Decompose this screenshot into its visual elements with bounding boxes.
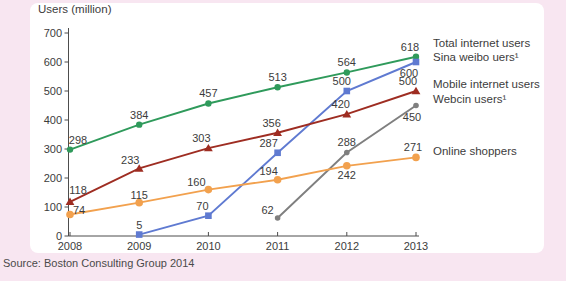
data-point-marker (274, 84, 280, 90)
legend-label: Total internet users (433, 37, 530, 49)
legend-label: Sina weibo uers¹ (433, 51, 519, 63)
value-label: 356 (262, 117, 280, 129)
value-label: 298 (69, 134, 87, 146)
data-point-marker (275, 215, 281, 221)
x-tick-label: 2011 (266, 240, 290, 252)
value-label: 450 (403, 111, 421, 123)
value-label: 5 (136, 219, 142, 231)
value-label: 194 (259, 165, 277, 177)
value-label: 513 (268, 71, 286, 83)
data-point-marker (205, 212, 212, 219)
value-label: 564 (338, 56, 356, 68)
value-label: 233 (121, 154, 139, 166)
data-point-marker (136, 231, 143, 238)
value-label: 118 (69, 184, 87, 196)
legend-label: Mobile internet users (433, 78, 540, 90)
data-point-marker (205, 186, 213, 194)
data-point-marker (344, 88, 351, 95)
value-label: 303 (192, 132, 210, 144)
x-tick-label: 2009 (127, 240, 151, 252)
y-tick-label: 600 (44, 56, 62, 68)
y-tick-label: 100 (44, 201, 62, 213)
value-label: 288 (338, 136, 356, 148)
value-label: 457 (199, 87, 217, 99)
source-note: Source: Boston Consulting Group 2014 (3, 257, 194, 269)
value-label: 242 (338, 169, 356, 181)
legend-label: Webcin users¹ (433, 93, 506, 105)
data-point-marker (205, 100, 211, 106)
value-label: 271 (404, 141, 422, 153)
value-label: 287 (259, 137, 277, 149)
x-tick-label: 2010 (196, 240, 220, 252)
y-tick-label: 300 (44, 143, 62, 155)
x-tick-label: 2013 (404, 240, 428, 252)
y-tick-label: 400 (44, 114, 62, 126)
y-tick-label: 500 (44, 85, 62, 97)
series-line (278, 106, 416, 219)
data-point-marker (413, 103, 419, 109)
y-tick-label: 200 (44, 172, 62, 184)
x-tick-label: 2008 (58, 240, 82, 252)
data-point-marker (274, 149, 281, 156)
figure: Users (million) 010020030040050060070020… (0, 0, 566, 281)
data-point-marker (412, 87, 421, 94)
data-point-marker (412, 154, 420, 162)
data-point-marker (274, 176, 282, 184)
value-label: 500 (399, 75, 417, 87)
legend-label: Online shoppers (433, 145, 517, 157)
value-label: 115 (130, 189, 148, 201)
data-point-marker (413, 59, 420, 66)
data-point-marker (344, 150, 350, 156)
chart-canvas: 0100200300400500600700200820092010201120… (0, 0, 566, 281)
value-label: 618 (401, 41, 419, 53)
value-label: 420 (332, 98, 350, 110)
value-label: 74 (73, 204, 85, 216)
x-tick-label: 2012 (335, 240, 359, 252)
value-label: 160 (187, 176, 205, 188)
value-label: 384 (130, 109, 148, 121)
value-label: 70 (196, 200, 208, 212)
value-label: 500 (333, 75, 351, 87)
series-line (70, 57, 416, 150)
data-point-marker (136, 121, 142, 127)
data-point-marker (67, 146, 73, 152)
value-label: 62 (261, 204, 273, 216)
y-tick-label: 700 (44, 27, 62, 39)
